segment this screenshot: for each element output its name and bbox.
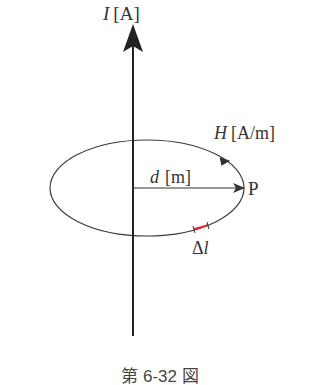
delta-l-label: Δl bbox=[192, 238, 209, 258]
figure-caption: 第 6-32 図 bbox=[121, 367, 198, 385]
field-label: H[A/m] bbox=[213, 123, 275, 143]
point-p-label: P bbox=[248, 178, 259, 199]
current-label: I[A] bbox=[102, 3, 140, 24]
ampere-law-diagram: I[A] H[A/m] d[m] P Δl 第 6-32 図 bbox=[0, 0, 314, 385]
distance-label: d[m] bbox=[150, 167, 191, 187]
